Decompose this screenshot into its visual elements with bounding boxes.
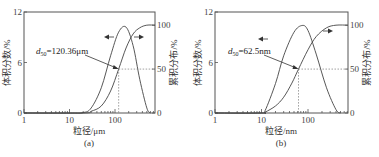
d50-arrow — [85, 55, 117, 68]
x-axis-title: 粒径/nm — [265, 125, 297, 136]
x-tick-label: 100 — [301, 115, 315, 125]
y-left-tick-label: 6 — [18, 58, 23, 68]
y-right-tick-label: 100 — [350, 20, 364, 30]
x-tick-label: 100 — [108, 115, 122, 125]
right-axis-arrow-icon — [139, 35, 144, 40]
chart-panel-b: 1101000612050100d50=62.5nm粒径/nm(b)体积分数/%… — [192, 7, 372, 148]
y-right-tick-label: 100 — [157, 20, 171, 30]
y-right-axis-title: 累积分布/% — [361, 39, 372, 86]
panel-label: (a) — [84, 138, 94, 148]
panel-label: (b) — [276, 138, 287, 148]
left-axis-arrow-icon — [104, 35, 109, 40]
y-left-tick-label: 0 — [209, 108, 214, 118]
volume-fraction-curve — [215, 25, 341, 113]
y-left-tick-label: 12 — [13, 7, 22, 17]
chart-panel-a: 1101000612050100d50=120.36μm粒径/μm(a)体积分数… — [1, 7, 179, 148]
y-left-tick-label: 6 — [209, 58, 214, 68]
y-left-tick-label: 0 — [18, 108, 23, 118]
right-axis-arrow-icon — [328, 29, 333, 34]
y-right-tick-label: 0 — [157, 108, 162, 118]
x-tick-label: 10 — [65, 115, 75, 125]
volume-fraction-curve — [24, 26, 150, 113]
d50-annotation: d50=120.36μm — [36, 46, 88, 57]
y-left-tick-label: 12 — [204, 7, 213, 17]
y-right-axis-title: 累积分布/% — [168, 39, 179, 86]
cumulative-curve — [24, 25, 155, 113]
x-tick-label: 10 — [257, 115, 267, 125]
y-right-tick-label: 0 — [350, 108, 355, 118]
y-right-tick-label: 50 — [157, 64, 167, 74]
y-left-axis-title: 体积分数/% — [192, 39, 203, 86]
plot-frame — [24, 12, 155, 113]
left-axis-arrow-icon — [258, 37, 263, 42]
x-axis-title: 粒径/μm — [73, 125, 105, 136]
chart-canvas: 1101000612050100d50=120.36μm粒径/μm(a)体积分数… — [0, 0, 379, 157]
y-right-tick-label: 50 — [350, 64, 360, 74]
y-left-axis-title: 体积分数/% — [1, 39, 12, 86]
cumulative-curve — [215, 25, 348, 113]
x-tick-label: 1 — [213, 115, 218, 125]
x-tick-label: 1 — [22, 115, 27, 125]
